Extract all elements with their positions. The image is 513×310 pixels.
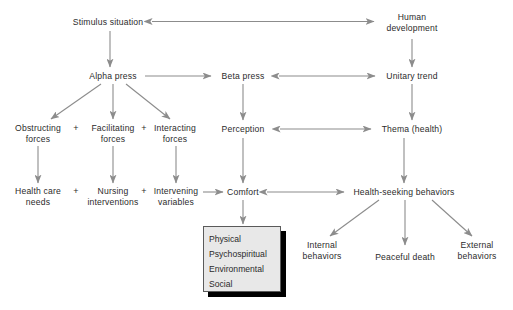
comfort-type-psychospiritual: Psychospiritual xyxy=(209,247,280,262)
node-nursing-interventions: Nursing interventions xyxy=(88,186,139,207)
comfort-type-physical: Physical xyxy=(209,232,280,247)
node-stimulus-situation: Stimulus situation xyxy=(73,17,143,28)
node-health-care-needs: Health care needs xyxy=(15,186,61,207)
node-comfort: Comfort xyxy=(227,187,259,198)
arrow-health-seeking-to-internal-behaviors xyxy=(330,200,379,236)
node-facilitating-forces: Facilitating forces xyxy=(91,123,134,144)
node-health-seeking-behaviors: Health-seeking behaviors xyxy=(353,187,454,198)
figure-caption-strip xyxy=(0,300,513,310)
node-obstructing-forces: Obstructing forces xyxy=(15,123,61,144)
node-intervening-variables: Intervening variables xyxy=(154,186,198,207)
plus-sign-forces-2: + xyxy=(141,123,146,134)
node-thema-health: Thema (health) xyxy=(382,124,443,135)
plus-sign-forces-1: + xyxy=(73,123,78,134)
node-unitary-trend: Unitary trend xyxy=(386,71,437,82)
arrow-alpha-press-to-obstructing-forces xyxy=(51,84,101,119)
comfort-types-box: Physical Psychospiritual Environmental S… xyxy=(203,226,281,292)
diagram-canvas: Stimulus situation Human development Alp… xyxy=(0,0,513,310)
comfort-type-environmental: Environmental xyxy=(209,262,280,277)
arrow-health-seeking-to-external-behaviors xyxy=(432,200,472,236)
comfort-type-social: Social xyxy=(209,277,280,292)
node-perception: Perception xyxy=(222,124,265,135)
node-beta-press: Beta press xyxy=(222,71,265,82)
arrow-alpha-press-to-interacting-forces xyxy=(126,84,170,119)
node-interacting-forces: Interacting forces xyxy=(154,123,196,144)
node-peaceful-death: Peaceful death xyxy=(375,252,435,263)
plus-sign-outcome-2: + xyxy=(141,186,146,197)
node-internal-behaviors: Internal behaviors xyxy=(303,240,342,261)
plus-sign-outcome-1: + xyxy=(73,186,78,197)
node-alpha-press: Alpha press xyxy=(89,71,136,82)
node-human-development: Human development xyxy=(386,12,437,33)
node-external-behaviors: External behaviors xyxy=(458,240,497,261)
